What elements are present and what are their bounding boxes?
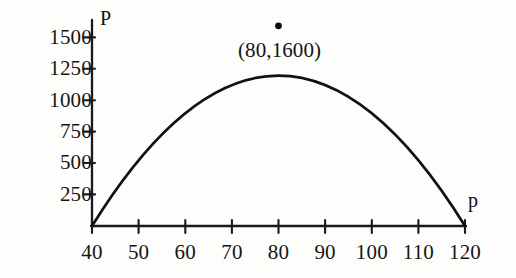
x-axis-label: p xyxy=(468,190,478,210)
vertex-point-marker xyxy=(275,22,282,29)
y-tick-label-1500: 1500 xyxy=(24,27,92,48)
y-tick-label-250: 250 xyxy=(24,184,92,205)
vertex-annotation-label: (80,1600) xyxy=(238,40,321,61)
y-tick-label-500: 500 xyxy=(24,152,92,173)
x-tick-label-120: 120 xyxy=(435,242,495,263)
y-tick-label-1250: 1250 xyxy=(24,58,92,79)
y-axis-label: P xyxy=(100,8,111,28)
y-tick-label-750: 750 xyxy=(24,121,92,142)
y-tick-label-1000: 1000 xyxy=(24,90,92,111)
parabola-figure: 1500 1250 1000 750 500 250 40 50 60 70 8… xyxy=(0,0,516,278)
parabola-curve xyxy=(92,76,465,226)
